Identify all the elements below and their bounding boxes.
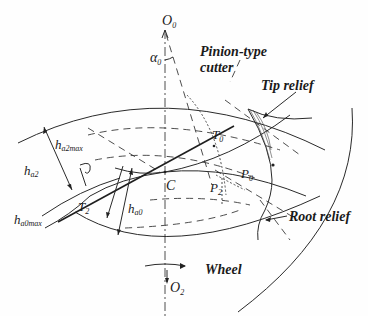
label-pinion-type: Pinion-type [200,44,267,59]
label-tip-relief: Tip relief [261,78,315,93]
diagram-svg: O0 α0 Pinion-type cutter Tip relief Root… [0,0,368,316]
background-bleed [0,0,368,316]
tooth-point-marker [271,163,274,166]
label-c: C [166,178,176,193]
label-root-relief: Root relief [288,209,351,224]
t0-marker [213,145,216,148]
gear-meshing-diagram: O0 α0 Pinion-type cutter Tip relief Root… [0,0,368,316]
label-cutter: cutter [200,60,234,75]
pitch-point-marker [164,171,167,174]
label-wheel: Wheel [205,262,242,277]
